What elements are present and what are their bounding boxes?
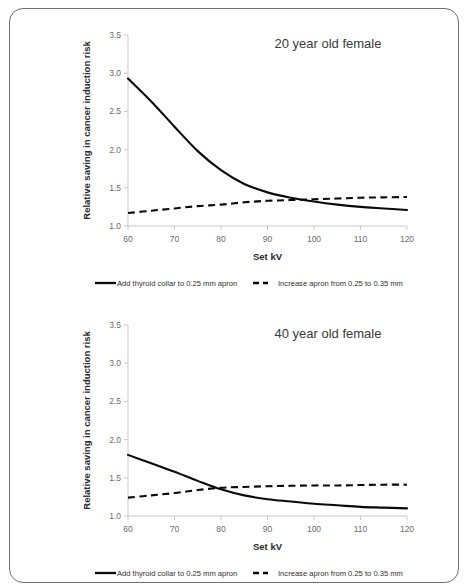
y-tick-label: 3.5: [109, 30, 121, 40]
x-tick-label: 120: [400, 234, 414, 244]
x-tick-label: 90: [263, 524, 273, 534]
legend-label-thyroid-collar: Add thyroid collar to 0.25 mm apron: [117, 569, 237, 578]
panel-title: 20 year old female: [275, 36, 382, 51]
series-line-thyroid-collar: [128, 79, 407, 210]
x-tick-label: 70: [170, 234, 180, 244]
series-line-increase-apron: [128, 197, 407, 213]
chart-40-year-old-female: 1.01.52.02.53.03.56070809010011012040 ye…: [10, 303, 460, 587]
x-tick-label: 70: [170, 524, 180, 534]
x-tick-label: 80: [216, 234, 226, 244]
x-tick-label: 80: [216, 524, 226, 534]
y-tick-label: 2.5: [109, 106, 121, 116]
panel-title: 40 year old female: [275, 326, 382, 341]
x-tick-label: 100: [307, 524, 321, 534]
y-tick-label: 2.0: [109, 145, 121, 155]
y-axis-title: Relative saving in cancer induction risk: [81, 41, 92, 220]
y-tick-label: 3.5: [109, 320, 121, 330]
x-axis-title: Set kV: [253, 251, 283, 262]
legend-label-increase-apron: Increase apron from 0.25 to 0.35 mm: [278, 279, 403, 288]
series-line-thyroid-collar: [128, 455, 407, 508]
x-tick-label: 110: [354, 524, 368, 534]
x-tick-label: 120: [400, 524, 414, 534]
legend-item-thyroid-collar: Add thyroid collar to 0.25 mm apron: [95, 279, 237, 288]
y-tick-label: 1.5: [109, 473, 121, 483]
y-axis-title: Relative saving in cancer induction risk: [81, 331, 92, 510]
legend-item-thyroid-collar: Add thyroid collar to 0.25 mm apron: [95, 569, 237, 578]
legend-label-thyroid-collar: Add thyroid collar to 0.25 mm apron: [117, 279, 237, 288]
legend-item-increase-apron: Increase apron from 0.25 to 0.35 mm: [253, 569, 403, 578]
y-tick-label: 3.0: [109, 68, 121, 78]
chart-panel-20-year-old-female: 1.01.52.02.53.03.56070809010011012020 ye…: [10, 13, 460, 303]
y-tick-label: 2.5: [109, 396, 121, 406]
x-tick-label: 110: [354, 234, 368, 244]
y-tick-label: 2.0: [109, 435, 121, 445]
y-tick-label: 3.0: [109, 358, 121, 368]
series-line-increase-apron: [128, 485, 407, 498]
figure-frame: 1.01.52.02.53.03.56070809010011012020 ye…: [9, 8, 459, 583]
x-tick-label: 60: [123, 234, 133, 244]
legend-item-increase-apron: Increase apron from 0.25 to 0.35 mm: [253, 279, 403, 288]
x-tick-label: 90: [263, 234, 273, 244]
legend-label-increase-apron: Increase apron from 0.25 to 0.35 mm: [278, 569, 403, 578]
y-tick-label: 1.5: [109, 183, 121, 193]
chart-panel-40-year-old-female: 1.01.52.02.53.03.56070809010011012040 ye…: [10, 303, 460, 587]
x-axis-title: Set kV: [253, 541, 283, 552]
y-tick-label: 1.0: [109, 221, 121, 231]
chart-20-year-old-female: 1.01.52.02.53.03.56070809010011012020 ye…: [10, 13, 460, 303]
x-tick-label: 100: [307, 234, 321, 244]
y-tick-label: 1.0: [109, 511, 121, 521]
x-tick-label: 60: [123, 524, 133, 534]
